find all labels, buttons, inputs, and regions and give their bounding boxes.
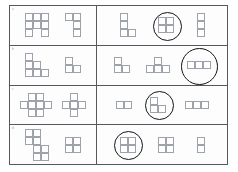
- grid-cell: [33, 129, 41, 137]
- shape-slot[interactable]: [65, 57, 81, 73]
- grid-cell: [33, 153, 41, 161]
- grid-cell: [116, 101, 124, 109]
- grid-cell: [25, 21, 33, 29]
- grid-cell: [185, 101, 193, 109]
- grid-cell: [41, 69, 49, 77]
- grid-cell: [65, 65, 73, 73]
- polyomino-l-tetromino: [120, 13, 136, 37]
- grid-cell: [158, 105, 166, 113]
- polyomino-square-2x2: [158, 17, 174, 33]
- grid-cell: [25, 69, 33, 77]
- row-answer-panel: [97, 6, 227, 45]
- grid-cell: [197, 29, 205, 37]
- grid-cell: [128, 29, 136, 37]
- grid-cell: [120, 29, 128, 37]
- polyomino-square-2x2: [65, 137, 81, 153]
- row-label: c: [12, 87, 14, 91]
- polyomino-horizontal-i-tromino: [187, 61, 211, 69]
- polyomino-l-tromino: [150, 97, 166, 113]
- grid-cell: [73, 13, 81, 21]
- grid-cell: [114, 65, 122, 73]
- shape-slot[interactable]: [185, 101, 209, 109]
- shape-slot[interactable]: [150, 97, 166, 113]
- grid-cell: [28, 93, 36, 101]
- shape-slot[interactable]: [197, 13, 205, 37]
- row-prompt-panel: c: [10, 86, 97, 125]
- polyomino-square-2x2: [120, 137, 136, 153]
- grid-cell: [120, 13, 128, 21]
- grid-cell: [25, 53, 33, 61]
- shape-slot[interactable]: [114, 57, 130, 73]
- grid-cell: [20, 101, 28, 109]
- grid-cell: [28, 101, 36, 109]
- shape-slot[interactable]: [158, 17, 174, 33]
- shape-slot[interactable]: [62, 93, 86, 117]
- grid-cell: [73, 145, 81, 153]
- worksheet-row: d: [10, 125, 227, 164]
- row-label: a: [12, 7, 14, 11]
- shape-slot[interactable]: [158, 137, 174, 153]
- grid-cell: [166, 145, 174, 153]
- shape-slot[interactable]: [65, 13, 81, 37]
- grid-cell: [73, 137, 81, 145]
- grid-cell: [36, 93, 44, 101]
- grid-cell: [33, 145, 41, 153]
- grid-cell: [70, 109, 78, 117]
- grid-cell: [166, 25, 174, 33]
- grid-cell: [114, 57, 122, 65]
- grid-cell: [33, 137, 41, 145]
- shape-slot[interactable]: [25, 13, 49, 37]
- grid-cell: [120, 145, 128, 153]
- grid-cell: [65, 13, 73, 21]
- grid-cell: [158, 137, 166, 145]
- grid-cell: [33, 61, 41, 69]
- polyomino-square-2x2: [158, 137, 174, 153]
- shape-slot[interactable]: [120, 13, 136, 37]
- shape-slot[interactable]: [25, 129, 49, 161]
- grid-cell: [33, 69, 41, 77]
- worksheet-row: b: [10, 46, 227, 86]
- grid-cell: [197, 13, 205, 21]
- grid-cell: [195, 61, 203, 69]
- shape-slot[interactable]: [197, 137, 205, 153]
- shape-slot[interactable]: [20, 93, 52, 117]
- grid-cell: [154, 65, 162, 73]
- shape-slot[interactable]: [187, 61, 211, 69]
- worksheet-page: abcd: [0, 0, 238, 172]
- grid-cell: [33, 21, 41, 29]
- grid-cell: [78, 101, 86, 109]
- grid-cell: [158, 145, 166, 153]
- grid-cell: [41, 21, 49, 29]
- grid-cell: [25, 29, 33, 37]
- shape-slot[interactable]: [25, 53, 49, 77]
- grid-cell: [150, 97, 158, 105]
- grid-cell: [70, 101, 78, 109]
- grid-cell: [154, 57, 162, 65]
- grid-cell: [41, 153, 49, 161]
- polyomino-offset-double-square: [25, 129, 49, 161]
- row-answer-panel: [97, 46, 227, 85]
- grid-cell: [73, 21, 81, 29]
- grid-cell: [146, 65, 154, 73]
- shape-slot[interactable]: [146, 57, 170, 73]
- polyomino-t-tetromino: [146, 57, 170, 73]
- grid-cell: [122, 65, 130, 73]
- shape-slot[interactable]: [65, 137, 81, 153]
- grid-cell: [197, 21, 205, 29]
- grid-cell: [41, 13, 49, 21]
- grid-cell: [44, 101, 52, 109]
- grid-cell: [73, 29, 81, 37]
- row-answer-panel: [97, 86, 227, 125]
- shape-slot[interactable]: [116, 101, 132, 109]
- grid-cell: [62, 101, 70, 109]
- grid-cell: [36, 101, 44, 109]
- grid-cell: [128, 145, 136, 153]
- grid-cell: [65, 57, 73, 65]
- grid-cell: [25, 61, 33, 69]
- grid-cell: [65, 137, 73, 145]
- grid-cell: [201, 101, 209, 109]
- polyomino-domino: [116, 101, 132, 109]
- polyomino-vertical-domino: [197, 137, 205, 153]
- polyomino-cross-hexomino: [20, 93, 52, 117]
- shape-slot[interactable]: [120, 137, 136, 153]
